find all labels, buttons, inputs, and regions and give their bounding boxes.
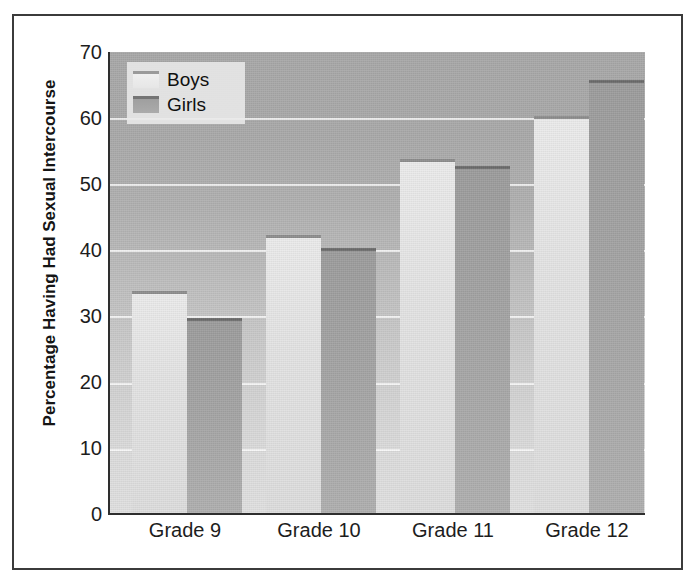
- y-axis-tick-labels: 70 60 50 40 30 20 10 0: [52, 0, 102, 588]
- x-axis-tick-labels: Grade 9 Grade 10 Grade 11 Grade 12: [108, 519, 645, 549]
- bar-boys-grade-12[interactable]: [534, 116, 589, 513]
- x-tick-grade-9: Grade 9: [118, 519, 252, 542]
- bar-boys-grade-11[interactable]: [400, 159, 455, 513]
- bar-girls-grade-10[interactable]: [321, 248, 376, 513]
- legend-swatch-girls-icon: [133, 96, 159, 113]
- legend-item-girls: Girls: [133, 92, 239, 117]
- bar-boys-grade-9[interactable]: [132, 291, 187, 513]
- bar-girls-grade-12[interactable]: [589, 80, 644, 513]
- bar-chart: Percentage Having Had Sexual Intercourse…: [0, 0, 696, 588]
- y-tick-40: 40: [58, 240, 102, 260]
- legend-label-boys: Boys: [167, 69, 209, 91]
- y-tick-0: 0: [58, 504, 102, 524]
- x-tick-grade-10: Grade 10: [252, 519, 386, 542]
- legend-label-girls: Girls: [167, 94, 206, 116]
- y-tick-60: 60: [58, 108, 102, 128]
- legend-swatch-boys-icon: [133, 71, 159, 88]
- y-tick-70: 70: [58, 42, 102, 62]
- bar-boys-grade-10[interactable]: [266, 235, 321, 513]
- legend: Boys Girls: [127, 62, 245, 124]
- y-tick-50: 50: [58, 174, 102, 194]
- legend-item-boys: Boys: [133, 67, 239, 92]
- y-tick-20: 20: [58, 372, 102, 392]
- x-tick-grade-12: Grade 12: [520, 519, 654, 542]
- plot-area: Boys Girls: [108, 52, 645, 515]
- y-tick-30: 30: [58, 306, 102, 326]
- x-tick-grade-11: Grade 11: [386, 519, 520, 542]
- bar-girls-grade-11[interactable]: [455, 166, 510, 513]
- y-tick-10: 10: [58, 438, 102, 458]
- bar-girls-grade-9[interactable]: [187, 318, 242, 513]
